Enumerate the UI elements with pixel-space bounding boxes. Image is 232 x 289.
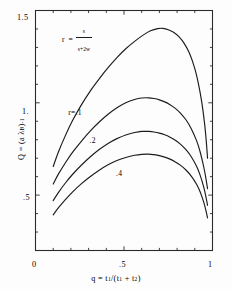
curve-label-0: r=.1 [68, 108, 82, 117]
formula-denominator: s+2w [78, 46, 90, 52]
formula-annotation: r = s s+2w [62, 19, 93, 55]
curve-label-1: .2 [89, 136, 95, 145]
figure-container: 1.5 1. .5 0 .5 1 q = t1/(t1 + t2) Q = (a… [0, 0, 232, 289]
y-tick-label-1.5: 1.5 [17, 6, 28, 24]
y-axis-title: Q = (a λB)-1 [10, 84, 28, 194]
x-axis-title: q = t1/(t1 + t2) [0, 267, 232, 285]
formula-lhs: r [62, 35, 65, 44]
formula-numerator: s [83, 28, 85, 34]
formula-equals: = [69, 35, 73, 44]
curve-label-3: .4 [116, 169, 122, 178]
curve-r.4 [53, 154, 207, 218]
data-curves [53, 28, 207, 218]
chart-canvas [0, 0, 232, 289]
